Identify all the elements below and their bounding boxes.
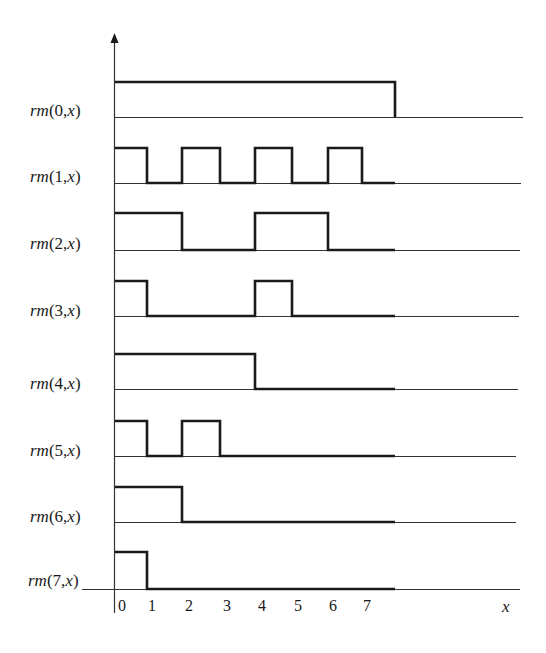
row-label-1: rm(1,x) [30, 168, 81, 185]
step-signal-6 [115, 487, 395, 522]
step-function-plot [0, 0, 546, 653]
step-signal-1 [115, 148, 395, 183]
x-tick-5: 5 [294, 598, 302, 614]
step-signal-3 [115, 281, 395, 316]
row-label-5: rm(5,x) [30, 442, 81, 459]
row-label-7: rm(7,x) [28, 572, 79, 589]
row-label-4: rm(4,x) [30, 375, 81, 392]
signal-row-2 [115, 213, 520, 251]
step-signal-0 [115, 82, 395, 117]
x-tick-7: 7 [363, 598, 371, 614]
x-tick-2: 2 [185, 598, 193, 614]
signal-row-5 [115, 421, 516, 457]
diagram-canvas: rm(0,x) rm(1,x) rm(2,x) rm(3,x) rm(4,x) … [0, 0, 546, 653]
step-signal-5 [115, 421, 395, 456]
signal-row-4 [115, 354, 518, 390]
x-tick-3: 3 [223, 598, 231, 614]
x-tick-4: 4 [258, 598, 266, 614]
x-axis-label: x [502, 598, 510, 615]
signal-rows [82, 82, 523, 590]
step-signal-7 [115, 552, 395, 589]
row-label-2: rm(2,x) [30, 235, 81, 252]
x-tick-0: 0 [118, 598, 126, 614]
signal-row-7 [82, 552, 520, 590]
signal-row-6 [115, 487, 516, 523]
signal-row-3 [115, 281, 519, 317]
x-tick-6: 6 [329, 598, 337, 614]
row-label-3: rm(3,x) [30, 302, 81, 319]
step-signal-2 [115, 213, 395, 250]
signal-row-0 [115, 82, 523, 118]
row-label-6: rm(6,x) [30, 508, 81, 525]
signal-row-1 [115, 148, 521, 184]
x-tick-1: 1 [148, 598, 156, 614]
step-signal-4 [115, 354, 395, 389]
y-axis-arrow-icon [111, 33, 119, 43]
row-label-0: rm(0,x) [30, 102, 81, 119]
